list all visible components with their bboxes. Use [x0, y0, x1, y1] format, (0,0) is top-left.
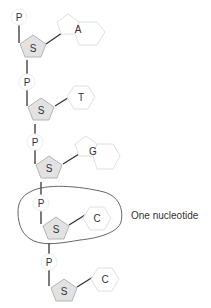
one-nucleotide-caption: One nucleotide [131, 210, 199, 221]
purine-hexagon-g [93, 144, 120, 169]
nucleotide-5: C S P [41, 254, 119, 301]
nucleotide-1: A S P [11, 9, 105, 57]
nucleotide-4: C S P [18, 186, 122, 243]
base-label-c1: C [93, 213, 100, 224]
sugar-label-1: S [30, 43, 37, 54]
base-label-g: G [89, 146, 97, 157]
backbone [19, 25, 49, 286]
dna-strand-diagram: A S P T S P G S P C S P One nucleotide [0, 0, 211, 308]
base-label-t: T [78, 92, 84, 103]
sugar-label-2: S [38, 105, 45, 116]
phosphate-label-3: P [32, 137, 39, 148]
phosphate-label-2: P [24, 77, 31, 88]
nucleotide-2: T S P [19, 74, 95, 120]
sugar-label-3: S [46, 163, 53, 174]
base-label-a: A [75, 24, 82, 35]
nucleotide-3: G S P [27, 134, 120, 178]
sugar-label-5: S [61, 286, 68, 297]
phosphate-label-5: P [46, 257, 53, 268]
base-label-c2: C [101, 274, 108, 285]
phosphate-label-1: P [16, 12, 23, 23]
phosphate-label-4: P [38, 198, 45, 209]
sugar-label-4: S [53, 224, 60, 235]
